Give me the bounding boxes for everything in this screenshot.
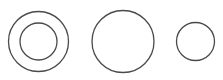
circles-diagram [0,0,223,80]
